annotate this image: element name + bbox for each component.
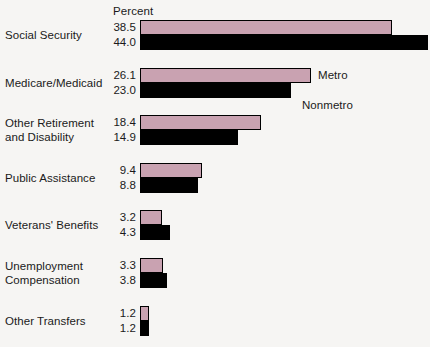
bar-value-nonmetro: 1.2 [88,321,136,336]
bar-nonmetro[interactable] [140,83,291,98]
bar-nonmetro[interactable] [140,225,170,240]
legend-label-nonmetro: Nonmetro [302,98,353,113]
bar-value-metro: 18.4 [88,115,136,130]
bar-group: Other Transfers 1.2 1.2 [0,306,430,338]
bar-row-nonmetro: 23.0 Nonmetro [0,83,430,98]
bar-metro[interactable] [140,68,311,83]
bar-row-nonmetro: 4.3 [0,225,430,240]
bar-value-metro: 1.2 [88,306,136,321]
bar-metro[interactable] [140,115,261,130]
bar-value-nonmetro: 44.0 [88,35,136,50]
bar-value-nonmetro: 4.3 [88,225,136,240]
bar-value-nonmetro: 23.0 [88,83,136,98]
bar-metro[interactable] [140,20,392,35]
bar-nonmetro[interactable] [140,321,149,336]
bar-metro[interactable] [140,306,149,321]
bar-metro[interactable] [140,163,202,178]
bar-chart: Percent Social Security 38.5 44.0 Medica… [0,0,430,347]
bar-nonmetro[interactable] [140,35,428,50]
bar-nonmetro[interactable] [140,130,238,145]
bar-row-metro: 9.4 [0,163,430,178]
bar-row-metro: 3.2 [0,210,430,225]
bar-row-metro: 26.1 Metro [0,68,430,83]
bar-group: Medicare/Medicaid 26.1 Metro 23.0 Nonmet… [0,68,430,100]
bar-group: Social Security 38.5 44.0 [0,20,430,52]
axis-title-percent: Percent [113,5,153,17]
bar-group: Unemployment Compensation 3.3 3.8 [0,258,430,290]
bar-metro[interactable] [140,258,163,273]
bar-value-metro: 38.5 [88,20,136,35]
bar-group: Veterans' Benefits 3.2 4.3 [0,210,430,242]
bar-value-metro: 9.4 [88,163,136,178]
bar-group: Public Assistance 9.4 8.8 [0,163,430,195]
bar-row-nonmetro: 14.9 [0,130,430,145]
bar-metro[interactable] [140,210,162,225]
bar-group: Other Retirement and Disability 18.4 14.… [0,115,430,147]
bar-row-metro: 38.5 [0,20,430,35]
bar-value-metro: 3.3 [88,258,136,273]
bar-row-nonmetro: 1.2 [0,321,430,336]
bar-row-metro: 3.3 [0,258,430,273]
bar-value-metro: 26.1 [88,68,136,83]
bar-row-metro: 18.4 [0,115,430,130]
bar-value-nonmetro: 14.9 [88,130,136,145]
bar-value-nonmetro: 8.8 [88,178,136,193]
bar-value-nonmetro: 3.8 [88,273,136,288]
bar-nonmetro[interactable] [140,273,167,288]
bar-nonmetro[interactable] [140,178,198,193]
bar-row-nonmetro: 3.8 [0,273,430,288]
legend-label-metro: Metro [318,68,348,83]
bar-value-metro: 3.2 [88,210,136,225]
bar-row-metro: 1.2 [0,306,430,321]
bar-row-nonmetro: 44.0 [0,35,430,50]
bar-row-nonmetro: 8.8 [0,178,430,193]
